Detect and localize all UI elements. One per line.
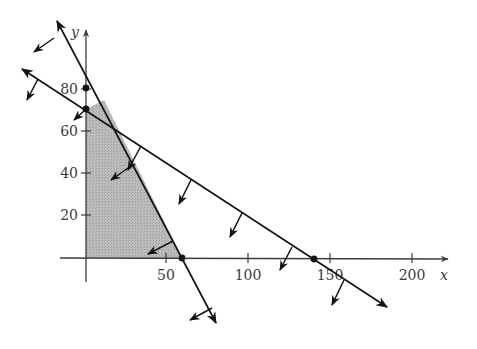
x-tick-label-50: 50 — [157, 267, 175, 283]
linear-programming-graph: 50 100 150 200 20 40 60 80 x y — [0, 0, 477, 349]
point-0-70 — [83, 106, 90, 113]
x-axis-label: x — [440, 267, 448, 283]
x-tick-label-200: 200 — [399, 267, 426, 283]
y-axis-label: y — [70, 24, 80, 40]
x-tick-label-100: 100 — [235, 267, 262, 283]
point-0-80 — [83, 85, 90, 92]
constraint-line-1 — [57, 21, 216, 323]
point-60-0 — [179, 255, 186, 262]
x-axis — [60, 258, 448, 259]
line-2-direction-arrows — [27, 79, 344, 305]
y-tick-label-40: 40 — [60, 165, 78, 181]
point-140-0 — [311, 256, 318, 263]
y-tick-label-20: 20 — [60, 207, 78, 223]
y-tick-label-80: 80 — [60, 81, 78, 97]
constraint-line-2 — [22, 69, 387, 307]
y-tick-label-60: 60 — [60, 123, 78, 139]
feasible-region — [86, 100, 182, 258]
